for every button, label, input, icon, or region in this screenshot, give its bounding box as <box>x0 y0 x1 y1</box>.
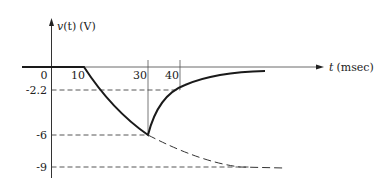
x-axis-arrow-icon <box>316 65 324 70</box>
y-tick-minus-9: -9 <box>36 161 47 174</box>
y-axis-arrow-icon <box>49 18 54 26</box>
waveform-dashed-continuation <box>148 135 284 168</box>
x-tick-0: 0 <box>41 69 48 82</box>
x-tick-30: 30 <box>133 69 147 82</box>
x-axis-label: t(msec) <box>329 61 374 74</box>
y-tick-minus-2-2: -2.2 <box>26 84 47 97</box>
y-axis-label: v(t)(V) <box>57 20 96 33</box>
y-tick-minus-6: -6 <box>36 129 47 142</box>
voltage-waveform-diagram: v(t)(V) t(msec) 0 10 30 40 -2.2 -6 -9 <box>0 0 386 190</box>
x-tick-40: 40 <box>165 69 179 82</box>
x-tick-10: 10 <box>71 69 85 82</box>
